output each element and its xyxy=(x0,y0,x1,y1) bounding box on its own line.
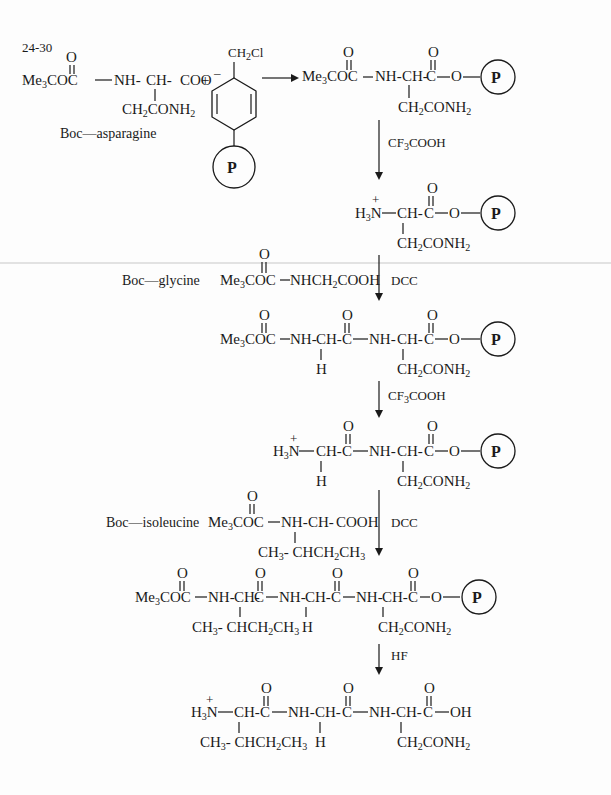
svg-text:CH2CONH2: CH2CONH2 xyxy=(397,473,470,491)
boc-glycine: O Me3COC NHCH2COOH xyxy=(220,246,380,290)
svg-text:O: O xyxy=(342,307,353,323)
svg-text:C: C xyxy=(426,68,436,84)
svg-text:NH-: NH- xyxy=(369,443,396,459)
svg-text:NH-: NH- xyxy=(288,704,315,720)
boc-asparagine-label: Boc—asparagine xyxy=(60,126,156,141)
svg-text:O: O xyxy=(427,180,438,196)
svg-text:CH-: CH- xyxy=(305,589,331,605)
svg-text:NHCH2COOH: NHCH2COOH xyxy=(290,272,380,290)
svg-text:OH: OH xyxy=(450,704,472,720)
svg-text:P: P xyxy=(491,69,501,86)
svg-text:CH-: CH- xyxy=(397,205,423,221)
svg-text:CH2CONH2: CH2CONH2 xyxy=(397,235,470,253)
svg-text:O: O xyxy=(343,680,354,696)
svg-text:H: H xyxy=(315,734,326,750)
svg-text:CH2CONH2: CH2CONH2 xyxy=(398,99,471,117)
boc-gly-asn-resin: O Me3COC NH- CH- C O NH- CH- C O O P H C… xyxy=(220,307,515,379)
svg-text:CH3- CHCH2CH3: CH3- CHCH2CH3 xyxy=(192,619,299,637)
svg-text:CH2CONH2: CH2CONH2 xyxy=(397,734,470,752)
svg-text:O: O xyxy=(451,68,462,84)
svg-text:CH3- CHCH2CH3: CH3- CHCH2CH3 xyxy=(258,544,365,562)
svg-text:O: O xyxy=(259,246,270,262)
svg-text:O: O xyxy=(247,488,258,504)
svg-text:P: P xyxy=(491,331,501,348)
svg-text:CH-: CH- xyxy=(316,443,342,459)
problem-number: 24-30 xyxy=(22,40,52,55)
svg-text:Me3COC: Me3COC xyxy=(220,331,276,349)
svg-text:O: O xyxy=(427,418,438,434)
svg-text:Me3COC: Me3COC xyxy=(302,68,358,86)
svg-text:O: O xyxy=(428,44,439,60)
reaction-scheme: 24-30 O Me3COC NH- CH- COO – CH2CONH2 Bo… xyxy=(0,0,611,795)
svg-text:H3N: H3N xyxy=(273,443,300,461)
coupling-reagent-1: DCC xyxy=(391,273,418,288)
svg-text:NH-: NH- xyxy=(375,68,402,84)
boc-asn-resin: O Me3COC NH- CH- C O O P CH2CONH2 xyxy=(302,44,515,117)
svg-text:O: O xyxy=(427,307,438,323)
svg-text:C: C xyxy=(423,704,433,720)
svg-text:O: O xyxy=(431,589,442,605)
h3n-gly-asn-resin: O O + H3N CH- C NH- CH- C O P H CH2CONH2 xyxy=(273,418,515,491)
cleavage-reagent: HF xyxy=(391,648,408,663)
svg-text:O: O xyxy=(259,307,270,323)
svg-text:O: O xyxy=(424,680,435,696)
svg-text:NH-: NH- xyxy=(356,589,383,605)
svg-text:O: O xyxy=(449,443,460,459)
deprotection-reagent-1: CF3COOH xyxy=(388,135,446,152)
svg-text:CH2CONH2: CH2CONH2 xyxy=(397,361,470,379)
svg-text:O: O xyxy=(332,565,343,581)
deprotection-reagent-2: CF3COOH xyxy=(388,388,446,405)
svg-text:NH-: NH- xyxy=(279,589,306,605)
boc-isoleucine-label: Boc—isoleucine xyxy=(106,515,199,530)
svg-text:CH-: CH- xyxy=(402,68,428,84)
svg-text:C: C xyxy=(254,589,264,605)
svg-text:CH3- CHCH2CH3: CH3- CHCH2CH3 xyxy=(200,734,307,752)
svg-text:CH2CONH2: CH2CONH2 xyxy=(122,101,195,119)
svg-text:CH-: CH- xyxy=(382,589,408,605)
svg-text:O: O xyxy=(449,205,460,221)
svg-text:C: C xyxy=(260,704,270,720)
svg-text:Me3COC: Me3COC xyxy=(208,514,264,532)
svg-text:O: O xyxy=(408,565,419,581)
svg-text:CH-: CH- xyxy=(396,704,422,720)
svg-text:CH-: CH- xyxy=(234,704,260,720)
h3n-asn-resin: O + H3N CH- C O P CH2CONH2 xyxy=(355,180,515,253)
svg-text:Me3COC: Me3COC xyxy=(135,589,191,607)
svg-text:O: O xyxy=(255,565,266,581)
svg-text:O: O xyxy=(177,565,188,581)
svg-text:CH-: CH- xyxy=(315,704,341,720)
svg-text:Me3COC: Me3COC xyxy=(22,72,78,90)
svg-text:O: O xyxy=(343,418,354,434)
svg-text:NH-: NH- xyxy=(114,72,141,88)
coupling-reagent-2: DCC xyxy=(391,515,418,530)
svg-text:CH2Cl: CH2Cl xyxy=(228,45,264,62)
boc-asparagine: O Me3COC NH- CH- COO – CH2CONH2 Boc—aspa… xyxy=(22,49,221,141)
svg-text:C: C xyxy=(424,205,434,221)
svg-text:CH-: CH- xyxy=(146,72,172,88)
svg-text:O: O xyxy=(261,680,272,696)
svg-text:–: – xyxy=(213,65,221,80)
svg-text:NH-: NH- xyxy=(369,704,396,720)
svg-text:C: C xyxy=(342,331,352,347)
svg-text:COOH: COOH xyxy=(336,514,379,530)
svg-text:H: H xyxy=(316,361,327,377)
svg-text:CH-: CH- xyxy=(316,331,342,347)
svg-text:P: P xyxy=(472,589,482,606)
svg-text:P: P xyxy=(491,443,501,460)
svg-text:C: C xyxy=(408,589,418,605)
svg-text:CH2CONH2: CH2CONH2 xyxy=(378,619,451,637)
svg-text:O: O xyxy=(449,331,460,347)
boc-ile-gly-asn-resin: O O O O Me3COC NH- CH- C NH- CH- C NH- C… xyxy=(135,565,496,637)
svg-text:NH-: NH- xyxy=(281,514,308,530)
svg-text:P: P xyxy=(491,205,501,222)
svg-text:C: C xyxy=(331,589,341,605)
svg-text:NH-: NH- xyxy=(290,331,317,347)
svg-text:O: O xyxy=(343,44,354,60)
svg-text:P: P xyxy=(227,159,237,176)
svg-text:H3N: H3N xyxy=(355,205,382,223)
svg-text:CH-: CH- xyxy=(397,331,423,347)
svg-text:NH-: NH- xyxy=(208,589,235,605)
boc-isoleucine: O Me3COC NH- CH- COOH CH3- CHCH2CH3 xyxy=(208,488,379,562)
boc-glycine-label: Boc—glycine xyxy=(122,273,200,288)
tripeptide-product: O O O + H3N CH- C NH- CH- C NH- CH- C OH… xyxy=(191,680,472,752)
